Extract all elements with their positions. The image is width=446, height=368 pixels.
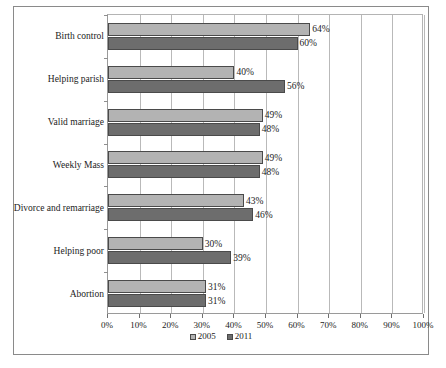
bar-2011[interactable]: 46% (108, 208, 253, 221)
bar-value-label: 48% (262, 166, 279, 177)
legend-swatch-icon (190, 334, 196, 340)
axis-tick-label: 20% (162, 320, 179, 330)
category-tick (104, 229, 108, 230)
bar-value-label: 31% (208, 281, 225, 292)
plot-area: Birth control64%60%Helping parish40%56%V… (107, 14, 423, 314)
legend-swatch-icon (227, 334, 233, 340)
axis-tick (297, 314, 298, 318)
category-tick (104, 15, 108, 16)
category-label: Birth control (55, 31, 104, 42)
bar-group: Abortion31%31% (108, 272, 422, 315)
bar-2005[interactable]: 49% (108, 151, 263, 164)
bar-value-label: 46% (255, 209, 272, 220)
bar-2005[interactable]: 49% (108, 109, 263, 122)
axis-tick (202, 314, 203, 318)
axis-tick (139, 314, 140, 318)
chart-frame: Birth control64%60%Helping parish40%56%V… (13, 6, 429, 355)
bar-value-label: 48% (262, 124, 279, 135)
bar-group: Weekly Mass49%48% (108, 144, 422, 187)
category-label: Valid marriage (48, 117, 104, 128)
bar-2011[interactable]: 31% (108, 294, 206, 307)
category-label: Divorce and remarriage (14, 202, 104, 213)
bar-2011[interactable]: 48% (108, 165, 260, 178)
axis-tick (265, 314, 266, 318)
bar-group: Valid marriage49%48% (108, 101, 422, 144)
bar-value-label: 40% (236, 67, 253, 78)
axis-tick-label: 80% (352, 320, 369, 330)
bar-group: Birth control64%60% (108, 15, 422, 58)
bar-2011[interactable]: 60% (108, 37, 298, 50)
axis-tick (107, 314, 108, 318)
gridline-100% (424, 15, 425, 313)
bar-value-label: 39% (233, 252, 250, 263)
bar-2005[interactable]: 64% (108, 23, 310, 36)
axis-tick-label: 100% (413, 320, 434, 330)
bar-value-label: 60% (300, 38, 317, 49)
axis-tick-label: 50% (257, 320, 274, 330)
bar-2005[interactable]: 43% (108, 194, 244, 207)
axis-tick-label: 60% (288, 320, 305, 330)
axis-tick (360, 314, 361, 318)
bar-value-label: 43% (246, 195, 263, 206)
category-tick (104, 58, 108, 59)
bar-2011[interactable]: 56% (108, 80, 285, 93)
bar-2005[interactable]: 31% (108, 280, 206, 293)
bar-2011[interactable]: 39% (108, 251, 231, 264)
bar-value-label: 31% (208, 295, 225, 306)
bar-2011[interactable]: 48% (108, 123, 260, 136)
bar-group: Divorce and remarriage43%46% (108, 186, 422, 229)
category-tick (104, 272, 108, 273)
category-tick (104, 144, 108, 145)
category-tick (104, 186, 108, 187)
axis-tick (328, 314, 329, 318)
legend-item-2011[interactable]: 2011 (227, 331, 253, 342)
axis-tick-label: 40% (225, 320, 242, 330)
category-label: Weekly Mass (53, 159, 104, 170)
bar-2005[interactable]: 30% (108, 237, 203, 250)
bar-2005[interactable]: 40% (108, 66, 234, 79)
legend-label: 2005 (198, 331, 216, 342)
axis-tick-label: 0% (101, 320, 113, 330)
bar-value-label: 64% (312, 24, 329, 35)
axis-tick (423, 314, 424, 318)
axis-tick-label: 10% (130, 320, 147, 330)
bar-value-label: 49% (265, 152, 282, 163)
category-label: Abortion (70, 288, 104, 299)
axis-tick (233, 314, 234, 318)
axis-tick (391, 314, 392, 318)
legend-item-2005[interactable]: 2005 (190, 331, 216, 342)
category-tick (104, 101, 108, 102)
bar-value-label: 56% (287, 81, 304, 92)
axis-tick-label: 30% (194, 320, 211, 330)
category-label: Helping parish (48, 74, 104, 85)
chart-legend: 20052011 (14, 331, 428, 342)
bar-value-label: 30% (205, 238, 222, 249)
axis-tick (170, 314, 171, 318)
legend-label: 2011 (235, 331, 253, 342)
category-label: Helping poor (54, 245, 104, 256)
axis-tick-label: 70% (320, 320, 337, 330)
bar-group: Helping parish40%56% (108, 58, 422, 101)
bar-value-label: 49% (265, 110, 282, 121)
axis-tick-label: 90% (383, 320, 400, 330)
bar-group: Helping poor30%39% (108, 229, 422, 272)
